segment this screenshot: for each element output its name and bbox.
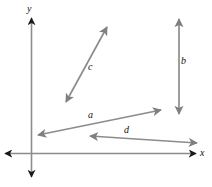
vector-diagram-canvas: x y a b c d — [0, 0, 212, 187]
vector-d-label: d — [124, 125, 129, 135]
vector-a-line[interactable] — [38, 110, 161, 135]
y-axis-label: y — [27, 4, 31, 14]
diagram-svg — [0, 0, 212, 187]
vector-c-line[interactable] — [66, 27, 107, 102]
axes-group — [5, 18, 196, 177]
vectors-group — [38, 19, 197, 143]
vector-a-label: a — [88, 110, 93, 120]
vector-c-label: c — [88, 62, 92, 72]
x-axis-label: x — [200, 148, 204, 158]
vector-b-label: b — [181, 56, 186, 66]
vector-d-line[interactable] — [90, 136, 197, 143]
